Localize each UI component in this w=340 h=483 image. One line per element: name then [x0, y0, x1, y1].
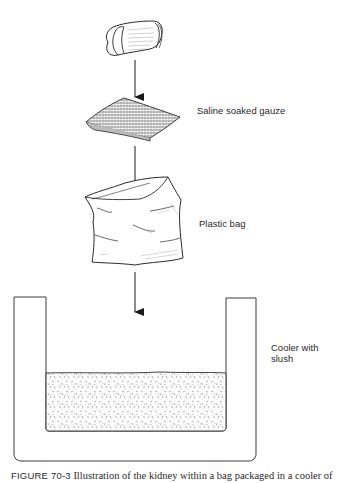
wrapped-kidney-illustration	[106, 21, 162, 55]
slush-fill	[46, 372, 226, 431]
label-cooler-with-slush: Cooler with slush	[271, 342, 340, 364]
label-plastic-bag: Plastic bag	[199, 218, 245, 229]
label-saline-gauze: Saline soaked gauze	[197, 105, 285, 116]
label-cooler-line2: slush	[271, 353, 340, 364]
figure-caption: FIGURE 70-3 Illustration of the kidney w…	[11, 469, 333, 483]
figure-number: FIGURE 70-3	[11, 470, 71, 481]
label-cooler-line1: Cooler with	[271, 342, 340, 353]
caption-text: Illustration of the kidney within a bag …	[73, 470, 332, 481]
cooler-illustration	[14, 297, 256, 461]
saline-gauze-illustration	[86, 98, 180, 141]
plastic-bag-illustration	[85, 177, 183, 265]
